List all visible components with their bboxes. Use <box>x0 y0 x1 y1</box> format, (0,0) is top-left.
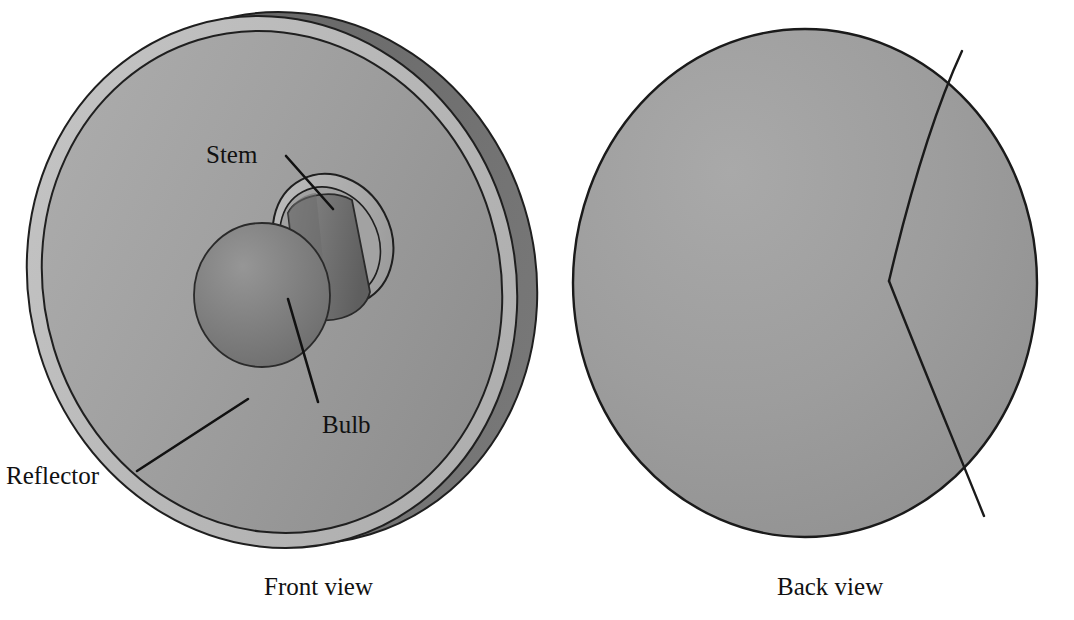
callout-label-reflector: Reflector <box>6 463 99 488</box>
lamp-bulb <box>194 223 330 367</box>
caption-back-view: Back view <box>777 574 883 599</box>
callout-label-bulb: Bulb <box>322 412 371 437</box>
caption-front-view: Front view <box>264 574 373 599</box>
callout-label-stem: Stem <box>206 142 257 167</box>
reflector-back-shell-outline <box>573 29 1037 537</box>
front-view-group <box>0 0 603 609</box>
figure-illustration <box>0 0 1074 620</box>
figure-root: Stem Bulb Reflector Front view Back view <box>0 0 1074 620</box>
back-view-group <box>573 29 1037 537</box>
